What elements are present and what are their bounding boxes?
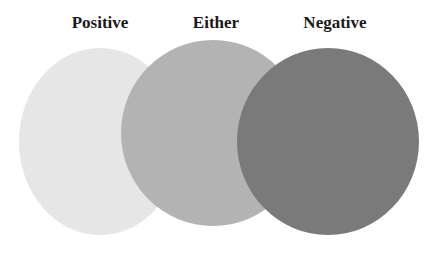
circle-negative: [237, 48, 419, 235]
label-positive: Positive: [72, 13, 129, 33]
label-negative: Negative: [303, 13, 366, 33]
label-either: Either: [193, 13, 239, 33]
